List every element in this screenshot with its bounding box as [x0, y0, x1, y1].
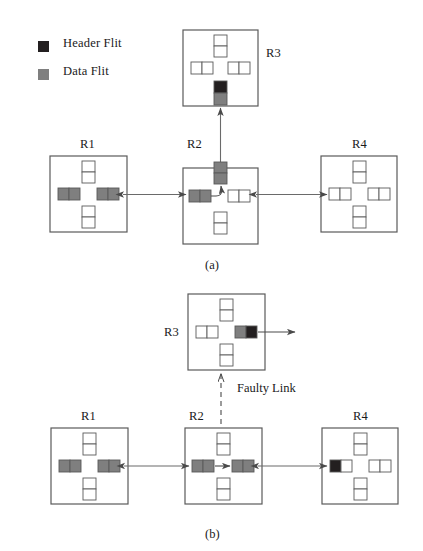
- router-r1-panel-a: [50, 156, 127, 232]
- router-label-r3-panel-b: R3: [164, 325, 179, 340]
- panel-b-caption: (b): [205, 527, 220, 542]
- router-r1-panel-b: [51, 428, 128, 504]
- router-r3-panel-b: [188, 294, 265, 370]
- router-label-r2-panel-b: R2: [189, 409, 204, 424]
- router-r2-panel-a: [183, 162, 258, 244]
- router-label-r3-panel-a: R3: [266, 46, 281, 61]
- router-label-r1-panel-b: R1: [81, 409, 96, 424]
- router-r3-panel-a: [183, 30, 258, 106]
- router-label-r1-panel-a: R1: [80, 137, 95, 152]
- router-r4-panel-a: [321, 156, 397, 232]
- router-label-r4-panel-a: R4: [352, 137, 367, 152]
- diagram-canvas: Header Flit Data Flit: [0, 0, 423, 551]
- router-r2-panel-b: [185, 428, 262, 504]
- router-label-r2-panel-a: R2: [187, 137, 202, 152]
- panel-a-caption: (a): [205, 258, 219, 273]
- diagram-graphics: [0, 0, 423, 551]
- router-label-r4-panel-b: R4: [353, 409, 368, 424]
- router-r4-panel-b: [322, 428, 398, 504]
- faulty-link-label: Faulty Link: [237, 381, 296, 396]
